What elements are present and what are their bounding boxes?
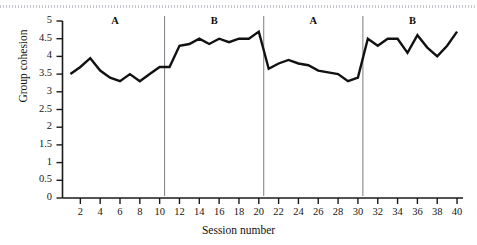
phase-label-a-3: A — [297, 15, 329, 26]
x-axis-title: Session number — [0, 224, 477, 236]
x-tick-label: 40 — [443, 206, 471, 217]
phase-label-b-2: B — [198, 15, 230, 26]
plot-area: 00.511.522.533.544.55 246810121416182022… — [0, 0, 477, 245]
y-tick-label: 1 — [14, 156, 52, 167]
phase-label-a-1: A — [99, 15, 131, 26]
y-tick-label: 0 — [14, 191, 52, 202]
y-tick-label: 1.5 — [14, 138, 52, 149]
y-tick-marks — [57, 21, 63, 198]
x-tick-marks — [80, 198, 457, 204]
figure-container: 00.511.522.533.544.55 246810121416182022… — [0, 0, 477, 245]
y-axis-title: Group cohesion — [17, 0, 29, 136]
y-tick-label: 0.5 — [14, 173, 52, 184]
phase-label-b-4: B — [396, 15, 428, 26]
phase-divider-lines — [165, 16, 363, 196]
